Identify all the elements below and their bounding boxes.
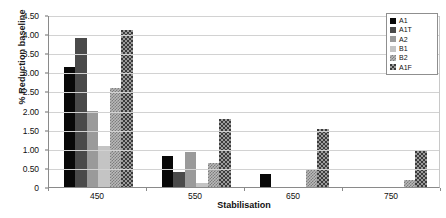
legend-item-b1[interactable]: B1	[390, 44, 435, 53]
gridline	[49, 169, 439, 170]
legend-swatch-icon	[390, 55, 396, 61]
y-tick-label: 1.50	[23, 126, 39, 136]
legend-swatch-icon	[390, 64, 396, 70]
gridline	[49, 112, 439, 113]
bar-b2-550	[208, 163, 220, 187]
gridline	[49, 73, 439, 74]
bar-a1f-550	[219, 119, 231, 187]
legend-label: B2	[399, 54, 408, 61]
y-tick-label: 3.50	[23, 49, 39, 59]
plot-area	[48, 16, 440, 188]
legend-label: A1F	[399, 64, 412, 71]
gridline	[49, 16, 439, 17]
bar-a1-650	[260, 174, 272, 187]
legend-item-a1t[interactable]: A1T	[390, 25, 435, 34]
legend-label: A1T	[399, 26, 412, 33]
legend-item-a1[interactable]: A1	[390, 16, 435, 25]
y-tick-label: 0.50	[23, 164, 39, 174]
y-tick-label: 0	[34, 183, 39, 193]
bar-a1-550	[162, 156, 174, 187]
x-tick-mark	[48, 188, 49, 191]
y-tick-label: 2.50	[23, 87, 39, 97]
bar-a1f-450	[121, 30, 133, 187]
bars-layer	[49, 16, 439, 187]
bar-b1-550	[196, 183, 208, 187]
gridline	[49, 35, 439, 36]
bar-a1t-550	[173, 172, 185, 187]
legend-swatch-icon	[390, 18, 396, 24]
y-tick-label: 1.00	[23, 145, 39, 155]
bar-chart: % Reduction baseline 00.501.001.502.002.…	[0, 0, 446, 218]
y-tick-label: 4.00	[23, 30, 39, 40]
legend-label: A2	[399, 36, 408, 43]
legend-label: A1	[399, 17, 408, 24]
gridline	[49, 92, 439, 93]
gridline	[49, 131, 439, 132]
x-tick-mark	[342, 188, 343, 191]
y-tick-label: 4.50	[23, 11, 39, 21]
legend-item-a2[interactable]: A2	[390, 35, 435, 44]
legend-item-a1f[interactable]: A1F	[390, 62, 435, 71]
y-tick-label: 3.00	[23, 68, 39, 78]
x-tick-mark	[146, 188, 147, 191]
y-tick-label: 2.00	[23, 107, 39, 117]
legend-swatch-icon	[390, 46, 396, 52]
legend-item-b2[interactable]: B2	[390, 53, 435, 62]
bar-b2-750	[404, 180, 416, 187]
legend: A1A1TA2B1B2A1F	[386, 13, 438, 75]
bar-b2-650	[306, 170, 318, 187]
gridline	[49, 54, 439, 55]
legend-label: B1	[399, 45, 408, 52]
x-tick-mark	[440, 188, 441, 191]
bar-a1f-650	[317, 129, 329, 187]
x-tick-mark	[244, 188, 245, 191]
legend-swatch-icon	[390, 27, 396, 33]
y-axis-tick-labels: 00.501.001.502.002.503.003.504.004.50	[0, 0, 44, 218]
legend-swatch-icon	[390, 36, 396, 42]
bar-b1-450	[98, 146, 110, 187]
gridline	[49, 150, 439, 151]
x-axis-title: Stabilisation	[48, 200, 440, 210]
bar-b2-450	[110, 88, 122, 187]
